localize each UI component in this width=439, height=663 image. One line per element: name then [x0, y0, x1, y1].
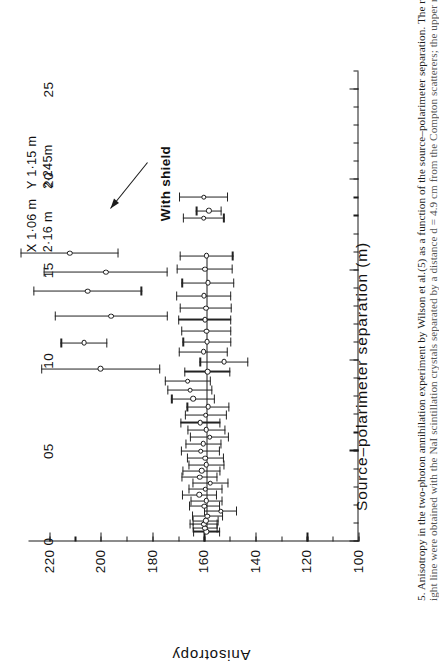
y-tick-minor: [229, 536, 230, 541]
error-bar-cap: [182, 466, 183, 475]
error-bar-cap: [219, 466, 220, 475]
figure-caption-line-2: ight line were obtained with the NaI sci…: [427, 0, 439, 601]
error-bar-cap: [231, 264, 232, 273]
data-point: [41, 368, 160, 369]
data-point: [171, 398, 214, 399]
error-bar-cap: [187, 425, 188, 434]
error-bar-cap: [216, 472, 217, 481]
data-point: [188, 505, 219, 506]
error-bar-cap: [181, 278, 182, 287]
error-bar-cap: [171, 394, 172, 403]
data-marker: [203, 498, 208, 503]
data-point: [192, 520, 218, 521]
data-marker: [197, 419, 202, 424]
error-bar-cap: [60, 338, 61, 347]
data-marker: [198, 448, 203, 453]
data-point: [196, 210, 222, 211]
data-marker: [202, 266, 207, 271]
plot-area: 00510152025 100120140160180200220 With s…: [28, 71, 358, 541]
y-tick-label: 160: [196, 549, 211, 573]
data-point: [178, 319, 231, 320]
error-bar-cap: [184, 367, 185, 376]
data-marker: [203, 412, 208, 417]
error-bar-cap: [140, 286, 141, 295]
error-bar-cap: [182, 337, 183, 346]
data-point: [185, 414, 226, 415]
error-bar-cap: [233, 278, 234, 287]
x-tick-minor: [353, 124, 358, 125]
data-marker: [81, 339, 86, 344]
error-bar-cap: [186, 453, 187, 462]
error-bar-cap: [227, 192, 228, 201]
data-point: [20, 252, 118, 253]
y-tick-label: 180: [144, 549, 159, 573]
data-point: [179, 255, 233, 256]
error-bar-cap: [167, 385, 168, 394]
data-marker: [203, 328, 208, 333]
data-marker: [206, 208, 211, 213]
error-bar-cap: [181, 326, 182, 335]
y-tick-minor: [178, 536, 179, 541]
error-bar-cap: [188, 460, 189, 469]
x-tick-label: 05: [40, 443, 55, 459]
data-point: [188, 488, 222, 489]
data-point: [181, 494, 216, 495]
data-point: [177, 268, 233, 269]
data-marker: [203, 461, 208, 466]
error-bar-cap: [230, 337, 231, 346]
data-point: [178, 351, 228, 352]
data-point: [192, 527, 218, 528]
data-point: [204, 510, 237, 511]
data-point: [182, 341, 230, 342]
data-point: [176, 295, 231, 296]
error-bar-cap: [106, 338, 107, 347]
error-bar-cap: [180, 418, 181, 427]
error-bar-cap: [217, 516, 218, 525]
data-marker: [199, 467, 204, 472]
y-tick-major: [49, 532, 50, 541]
data-marker: [200, 441, 205, 446]
error-bar-cap: [226, 347, 227, 356]
data-marker: [203, 427, 208, 432]
error-bar-cap: [33, 286, 34, 295]
data-point: [199, 361, 247, 362]
y-tick-label: 120: [299, 549, 314, 573]
error-bar-cap: [230, 326, 231, 335]
error-bar-cap: [179, 192, 180, 201]
data-point: [180, 422, 220, 423]
data-marker: [205, 279, 210, 284]
annotation-coord-x2: 2·16 m: [40, 211, 54, 252]
data-point: [181, 450, 220, 451]
data-point: [186, 406, 228, 407]
error-bar-cap: [185, 439, 186, 448]
error-bar-cap: [178, 347, 179, 356]
data-point: [190, 500, 222, 501]
data-marker: [221, 358, 226, 363]
error-bar-cap: [227, 478, 228, 487]
data-point: [187, 429, 225, 430]
error-bar-cap: [230, 303, 231, 312]
y-tick-major: [255, 532, 256, 541]
data-point: [188, 464, 224, 465]
data-marker: [67, 250, 72, 255]
data-point: [181, 282, 234, 283]
error-bar-cap: [181, 446, 182, 455]
error-bar-cap: [229, 367, 230, 376]
data-point: [180, 307, 232, 308]
error-bar-cap: [220, 439, 221, 448]
data-point: [167, 389, 211, 390]
y-tick-minor: [74, 536, 75, 541]
data-marker: [103, 269, 108, 274]
error-bar-cap: [183, 213, 184, 222]
error-bar-cap: [186, 402, 187, 411]
data-marker: [201, 215, 206, 220]
error-bar-cap: [176, 291, 177, 300]
data-marker: [201, 194, 206, 199]
error-bar-cap: [43, 267, 44, 276]
data-point: [181, 476, 217, 477]
error-bar-cap: [225, 410, 226, 419]
error-bar-cap: [181, 490, 182, 499]
error-bar-cap: [165, 376, 166, 385]
error-bar-cap: [178, 315, 179, 324]
x-tick-major: [349, 88, 358, 89]
